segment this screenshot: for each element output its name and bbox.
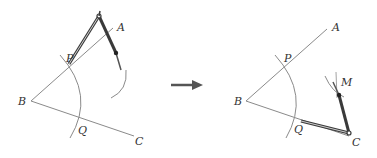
right-panel: A B P Q M C — [233, 21, 361, 149]
label-a: A — [331, 21, 340, 34]
label-c: C — [135, 135, 144, 148]
ray-ba — [246, 29, 327, 101]
arc-tick — [336, 72, 337, 98]
arc-small — [111, 70, 126, 98]
label-b: B — [17, 95, 26, 108]
label-b: B — [233, 95, 242, 108]
compass-icon — [69, 11, 121, 70]
label-p: P — [65, 52, 74, 65]
label-p: P — [283, 52, 292, 65]
left-panel: A B P Q C — [17, 11, 144, 148]
label-m: M — [340, 76, 353, 89]
right-arrow-icon — [171, 80, 203, 90]
label-c: C — [352, 136, 361, 149]
construction-diagram: A B P Q C A B P Q M C — [0, 0, 377, 158]
label-q: Q — [78, 124, 87, 137]
label-q: Q — [294, 123, 303, 136]
label-a: A — [116, 21, 125, 34]
compass-icon — [301, 82, 351, 135]
